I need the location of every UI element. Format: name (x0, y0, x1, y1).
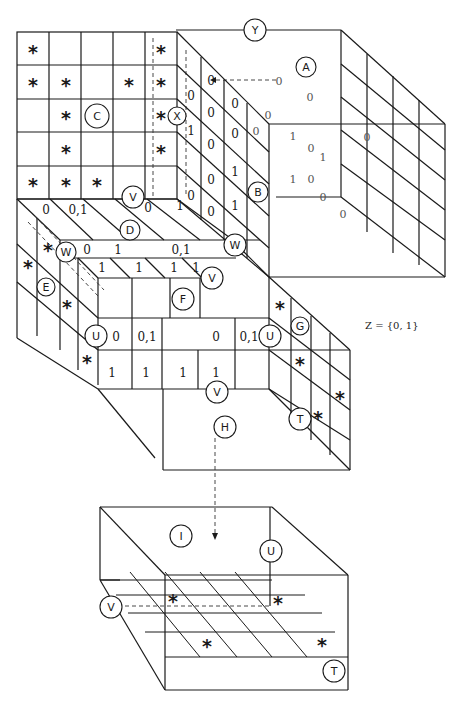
svg-text:*: * (61, 174, 71, 196)
svg-text:*: * (275, 297, 285, 319)
svg-text:1: 1 (176, 199, 184, 213)
svg-text:*: * (61, 74, 71, 96)
svg-text:H: H (221, 421, 229, 434)
svg-text:T: T (330, 665, 338, 678)
svg-text:C: C (93, 110, 101, 123)
label-W-left: W (56, 242, 76, 262)
svg-text:V: V (208, 272, 216, 285)
svg-text:*: * (317, 634, 327, 656)
svg-text:*: * (28, 174, 38, 196)
svg-text:B: B (254, 186, 262, 199)
arrow-down-icon (212, 533, 218, 540)
svg-text:0,1: 0,1 (171, 243, 190, 257)
svg-text:0: 0 (308, 142, 315, 155)
svg-text:*: * (273, 592, 283, 614)
svg-text:G: G (296, 320, 305, 333)
svg-text:*: * (61, 107, 71, 129)
svg-text:1: 1 (290, 130, 297, 143)
front-U-row: 0 0,1 0 0,1 (112, 330, 258, 344)
svg-text:0,1: 0,1 (137, 330, 156, 344)
svg-text:0: 0 (276, 75, 283, 88)
svg-text:1: 1 (98, 261, 106, 275)
svg-text:0: 0 (83, 243, 91, 257)
diagram-canvas: 0 0 0 0 1 0 1 1 0 0 0 0 * * * * * * * * … (0, 0, 459, 703)
label-V-top: V (122, 186, 144, 208)
svg-text:D: D (126, 224, 134, 237)
label-V-slab: V (100, 596, 122, 618)
side-face-G: * * * * (269, 277, 350, 470)
svg-text:1: 1 (192, 261, 200, 275)
side-face-X-values: 0 1 0 0 0 0 0 0 0 0 1 1 (187, 74, 239, 219)
svg-text:0: 0 (207, 106, 215, 120)
svg-text:0: 0 (187, 89, 195, 103)
svg-text:1: 1 (114, 243, 122, 257)
label-V-bottom: V (206, 381, 228, 403)
svg-text:*: * (156, 41, 166, 63)
svg-text:*: * (156, 107, 166, 129)
label-F: F (172, 288, 194, 310)
label-X: X (168, 107, 186, 125)
svg-text:1: 1 (212, 366, 220, 380)
label-E: E (37, 278, 55, 296)
svg-text:*: * (202, 635, 212, 657)
svg-text:0: 0 (364, 131, 371, 144)
svg-text:V: V (129, 191, 137, 204)
svg-text:*: * (43, 239, 53, 261)
cube-diagram: 0 0 0 0 1 0 1 1 0 0 0 0 * * * * * * * * … (0, 0, 459, 703)
svg-text:A: A (302, 61, 310, 74)
svg-text:0: 0 (207, 74, 215, 88)
face-D-values: 0 0,1 0 1 (42, 199, 184, 217)
svg-text:*: * (335, 387, 345, 409)
svg-text:*: * (313, 407, 323, 429)
label-T-upper: T (289, 408, 311, 430)
svg-text:1: 1 (231, 165, 239, 179)
svg-text:1: 1 (187, 124, 195, 138)
svg-text:*: * (23, 256, 33, 278)
svg-text:X: X (173, 110, 181, 123)
label-Y: Y (244, 19, 266, 41)
svg-text:Y: Y (251, 24, 259, 37)
svg-text:0: 0 (187, 189, 195, 203)
svg-text:1: 1 (170, 261, 178, 275)
front-bottom-row: 1 1 1 1 (108, 366, 220, 380)
svg-text:0: 0 (207, 173, 215, 187)
label-A: A (296, 57, 316, 77)
svg-text:0: 0 (340, 208, 347, 221)
label-V-mid: V (201, 267, 223, 289)
svg-text:0,1: 0,1 (68, 203, 87, 217)
label-B: B (248, 182, 268, 202)
svg-text:I: I (179, 530, 182, 543)
svg-text:V: V (107, 601, 115, 614)
face-F-top-values: 1 1 1 1 (98, 261, 200, 275)
svg-text:*: * (295, 353, 305, 375)
svg-text:1: 1 (108, 366, 116, 380)
svg-text:*: * (156, 141, 166, 163)
svg-text:0: 0 (112, 330, 120, 344)
svg-text:U: U (92, 330, 100, 343)
label-W-right: W (224, 234, 246, 256)
svg-text:V: V (213, 386, 221, 399)
svg-text:0: 0 (207, 205, 215, 219)
svg-text:*: * (156, 74, 166, 96)
label-D: D (120, 220, 140, 240)
svg-text:0: 0 (231, 97, 239, 111)
svg-text:*: * (92, 174, 102, 196)
label-H: H (214, 416, 236, 438)
bottom-slab-I: * * * * (100, 507, 348, 690)
svg-text:W: W (230, 239, 241, 252)
svg-text:0: 0 (231, 127, 239, 141)
box-H (163, 389, 350, 470)
svg-text:*: * (124, 74, 134, 96)
svg-text:U: U (266, 330, 274, 343)
svg-text:W: W (61, 246, 72, 259)
svg-text:0: 0 (253, 125, 260, 138)
svg-text:*: * (28, 41, 38, 63)
svg-text:0: 0 (265, 109, 272, 122)
label-G: G (291, 317, 309, 335)
label-T-slab: T (323, 660, 345, 682)
label-U-left: U (85, 325, 107, 347)
back-cube-values: 0 0 0 0 1 0 1 1 0 0 0 0 (253, 75, 371, 221)
svg-text:E: E (43, 281, 50, 294)
svg-text:*: * (28, 74, 38, 96)
svg-text:0: 0 (320, 191, 327, 204)
